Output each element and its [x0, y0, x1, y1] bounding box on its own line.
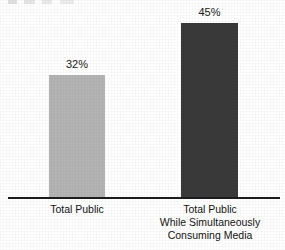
bar-total-public-consuming-media — [181, 23, 238, 198]
bar-chart: 32% 45% Total Public Total Public While … — [0, 0, 285, 250]
x-axis-baseline — [8, 197, 280, 199]
plot-area: 32% 45% Total Public Total Public While … — [0, 0, 285, 250]
category-label-2: Total Public While Simultaneously Consum… — [150, 203, 270, 242]
bar-total-public — [49, 75, 105, 198]
bar-value-label-1: 32% — [49, 58, 105, 70]
bar-value-label-2: 45% — [181, 6, 238, 18]
category-label-1: Total Public — [22, 203, 132, 216]
